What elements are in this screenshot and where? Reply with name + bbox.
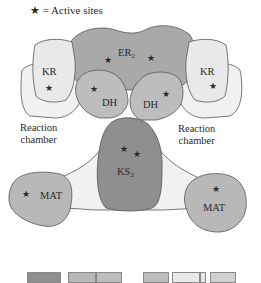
linear-bar-segment <box>27 272 61 283</box>
active-site-star-icon: ★ <box>162 90 170 99</box>
reaction-chamber-left-label: Reaction chamber <box>20 122 57 146</box>
ks-domain <box>97 118 162 211</box>
star-icon: ★ <box>30 4 40 16</box>
active-site-star-icon: ★ <box>133 150 141 159</box>
active-site-star-icon: ★ <box>22 190 30 199</box>
dh-right-label: DH <box>143 100 158 111</box>
active-site-star-icon: ★ <box>212 185 220 194</box>
linear-bar-segment <box>172 272 200 283</box>
linear-bar-segment <box>200 272 206 283</box>
ks-label: KS2 <box>117 167 134 179</box>
active-site-star-icon: ★ <box>45 84 53 93</box>
active-site-star-icon: ★ <box>90 85 98 94</box>
reaction-chamber-right-label: Reaction chamber <box>178 123 215 147</box>
linear-bar-segment <box>96 272 122 283</box>
linear-bar-segment <box>68 272 96 283</box>
pks-structure-diagram: ★ = Active sites ER2 KR KR DH DH KS2 MAT… <box>0 0 261 283</box>
kr-right-label: KR <box>200 67 215 78</box>
er-label: ER2 <box>118 48 135 60</box>
active-site-star-icon: ★ <box>120 145 128 154</box>
active-site-star-icon: ★ <box>209 82 217 91</box>
linear-bar-segment <box>143 272 169 283</box>
mat-right-label: MAT <box>203 203 225 214</box>
linear-bar-segment <box>210 272 236 283</box>
legend: ★ = Active sites <box>30 4 103 17</box>
active-site-star-icon: ★ <box>147 54 155 63</box>
active-site-star-icon: ★ <box>104 56 112 65</box>
kr-left-label: KR <box>42 67 57 78</box>
legend-text: = Active sites <box>43 4 103 16</box>
dh-left-label: DH <box>102 98 117 109</box>
mat-left-label: MAT <box>40 191 62 202</box>
